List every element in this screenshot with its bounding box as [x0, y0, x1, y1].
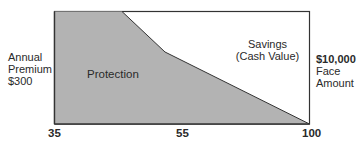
premium-label: Premium [8, 63, 52, 75]
tick-35: 35 [48, 127, 61, 139]
tick-55: 55 [176, 127, 189, 139]
left-annotation: Annual Premium $300 [8, 51, 52, 87]
right-annotation: $10,000 Face Amount [316, 53, 356, 89]
amount-label: Amount [316, 77, 356, 89]
protection-label: Protection [87, 68, 139, 80]
tick-100: 100 [302, 127, 321, 139]
face-label: Face [316, 65, 356, 77]
savings-line1: Savings [230, 38, 305, 50]
face-amount-value: $10,000 [316, 53, 356, 65]
annual-label: Annual [8, 51, 52, 63]
insurance-diagram [0, 0, 364, 145]
savings-line2: (Cash Value) [230, 50, 305, 62]
premium-amount: $300 [8, 75, 52, 87]
savings-label: Savings (Cash Value) [230, 38, 305, 62]
